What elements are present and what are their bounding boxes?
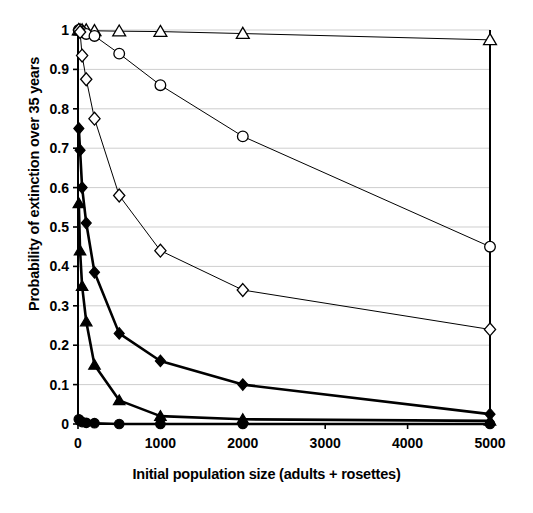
y-tick-label: 0.7 xyxy=(50,140,70,156)
y-tick-label: 0 xyxy=(61,416,69,432)
data-point-filled-diamond xyxy=(89,267,99,279)
data-point-filled-triangle xyxy=(89,359,101,369)
data-point-filled-circle xyxy=(238,419,248,429)
data-point-filled-diamond xyxy=(74,123,84,135)
y-tick-label: 0.3 xyxy=(50,298,70,314)
extinction-probability-chart: 00.10.20.30.40.50.60.70.80.9101000200030… xyxy=(0,0,533,513)
y-tick-label: 0.1 xyxy=(50,377,70,393)
data-point-open-circle xyxy=(485,241,496,252)
data-point-open-diamond xyxy=(81,73,92,86)
x-tick-label: 3000 xyxy=(310,435,341,451)
data-point-filled-diamond xyxy=(155,355,165,367)
x-tick-label: 1000 xyxy=(145,435,176,451)
series-line-filled-diamond xyxy=(79,129,490,415)
data-point-filled-circle xyxy=(156,419,166,429)
data-point-filled-circle xyxy=(485,419,495,429)
data-point-open-circle xyxy=(114,48,125,59)
y-tick-label: 0.9 xyxy=(50,61,70,77)
y-tick-label: 0.8 xyxy=(50,101,70,117)
y-tick-label: 0.2 xyxy=(50,337,70,353)
data-point-open-diamond xyxy=(237,284,248,297)
series-line-open-triangle xyxy=(79,30,490,40)
y-tick-label: 1 xyxy=(61,22,69,38)
data-point-open-triangle xyxy=(113,25,126,36)
data-point-open-circle xyxy=(155,80,166,91)
data-point-open-triangle xyxy=(154,25,167,36)
y-tick-label: 0.5 xyxy=(50,219,70,235)
x-tick-label: 5000 xyxy=(474,435,505,451)
series-line-open-circle xyxy=(79,30,490,247)
data-point-filled-circle xyxy=(114,419,124,429)
data-point-filled-triangle xyxy=(74,245,86,255)
data-point-open-triangle xyxy=(236,27,249,38)
data-point-open-diamond xyxy=(484,323,495,336)
x-tick-label: 0 xyxy=(74,435,82,451)
plot-area: 00.10.20.30.40.50.60.70.80.9101000200030… xyxy=(0,0,533,513)
data-point-filled-diamond xyxy=(114,328,124,340)
x-tick-label: 4000 xyxy=(392,435,423,451)
series-line-filled-triangle xyxy=(79,203,490,420)
data-point-filled-circle xyxy=(90,418,100,428)
x-tick-label: 2000 xyxy=(227,435,258,451)
y-axis-label: Probability of extinction over 35 years xyxy=(26,0,42,384)
series-line-open-diamond xyxy=(79,30,490,329)
data-point-open-triangle xyxy=(484,34,497,45)
x-axis-label: Initial population size (adults + rosett… xyxy=(0,466,533,482)
data-point-open-circle xyxy=(237,131,248,142)
data-point-open-circle xyxy=(89,31,100,42)
y-tick-label: 0.4 xyxy=(50,258,70,274)
y-tick-label: 0.6 xyxy=(50,180,70,196)
data-point-open-diamond xyxy=(89,112,100,125)
data-point-filled-triangle xyxy=(80,316,92,326)
data-point-filled-diamond xyxy=(238,379,248,391)
data-point-filled-diamond xyxy=(75,144,85,156)
